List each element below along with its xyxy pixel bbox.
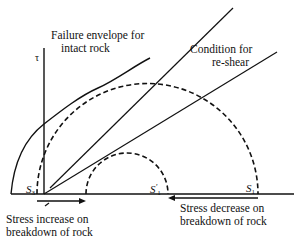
s3-sub: 3 bbox=[32, 189, 36, 197]
s3-label: S3 bbox=[26, 183, 35, 199]
reshear-label-line2: re-shear bbox=[212, 56, 249, 68]
reshear-line bbox=[44, 52, 277, 194]
s1-prime-sub: 1 bbox=[157, 189, 161, 197]
failure-envelope-label-line1: Failure envelope for bbox=[51, 29, 144, 41]
failure-envelope-label-line2: intact rock bbox=[61, 42, 110, 54]
s1-label: S1 bbox=[246, 182, 255, 198]
s1-prime-label: S'1 bbox=[150, 182, 161, 199]
tau-axis-label: τ bbox=[35, 52, 39, 64]
stress-decrease-label-line1: Stress decrease on bbox=[180, 202, 264, 214]
s1-sub: 1 bbox=[252, 188, 256, 196]
reshear-label-line1: Condition for bbox=[190, 43, 252, 55]
stress-decrease-arrow bbox=[168, 195, 258, 201]
stress-increase-label-line1: Stress increase on bbox=[6, 213, 88, 225]
stress-increase-label-line2: breakdown of rock bbox=[6, 226, 93, 238]
stress-increase-arrow bbox=[37, 198, 86, 206]
failure-envelope-curve bbox=[11, 58, 150, 194]
stress-decrease-label-line2: breakdown of rock bbox=[180, 215, 267, 227]
